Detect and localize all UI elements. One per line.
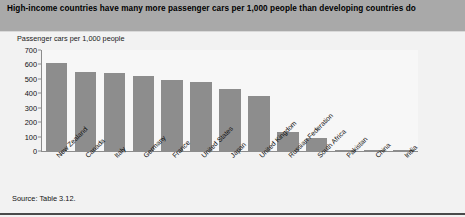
x-axis-labels: New ZealandCanadaItalyGermanyFranceUnite… [41,152,417,188]
bar-slot [42,50,71,151]
panel-divider [0,31,465,32]
x-axis-label-slot: South Africa [301,152,330,188]
bar [219,89,240,151]
y-axis-tick-label: 500 [25,74,37,83]
bar [104,73,125,151]
bar-slot [187,50,216,151]
footer-rule [0,213,465,215]
x-axis-label-slot: Germany [128,152,157,188]
chart-panel: Passenger cars per 1,000 people 01002003… [0,31,465,188]
x-axis-label-slot: India [388,152,417,188]
y-axis-tick-label: 300 [25,103,37,112]
bar [133,76,154,151]
chart-footer: Source: Table 3.12. [0,188,465,217]
plot-wrapper: 0100200300400500600700 New ZealandCanada… [0,48,465,188]
y-axis-tick-label: 700 [25,46,37,55]
bar [190,82,211,151]
x-axis-label-slot: China [359,152,388,188]
bar [248,96,269,151]
bar-slot [244,50,273,151]
y-axis-tick-label: 400 [25,89,37,98]
chart-figure: High-income countries have many more pas… [0,0,465,217]
x-axis-label-slot: New Zealand [41,152,70,188]
x-axis-label-slot: Japan [215,152,244,188]
bar [46,63,67,151]
y-axis-tick-label: 600 [25,60,37,69]
x-axis-label-slot: Pakistan [330,152,359,188]
x-axis-label-slot: United States [186,152,215,188]
x-axis-label-slot: Canada [70,152,99,188]
y-axis-tick-label: 0 [33,147,37,156]
x-axis-label-slot: Italy [99,152,128,188]
chart-title: High-income countries have many more pas… [7,3,457,14]
source-note: Source: Table 3.12. [12,194,76,203]
x-axis-label-slot: France [157,152,186,188]
y-axis-tick-label: 100 [25,132,37,141]
bar-slot [389,50,418,151]
y-axis: 0100200300400500600700 [0,48,41,151]
chart-subtitle: Passenger cars per 1,000 people [17,34,125,43]
x-axis-label-slot: Russian Federation [272,152,301,188]
chart-title-band: High-income countries have many more pas… [0,0,465,31]
y-axis-tick-label: 200 [25,118,37,127]
x-axis-label-slot: United Kingdom [243,152,272,188]
bar-slot [100,50,129,151]
bar-slot [129,50,158,151]
